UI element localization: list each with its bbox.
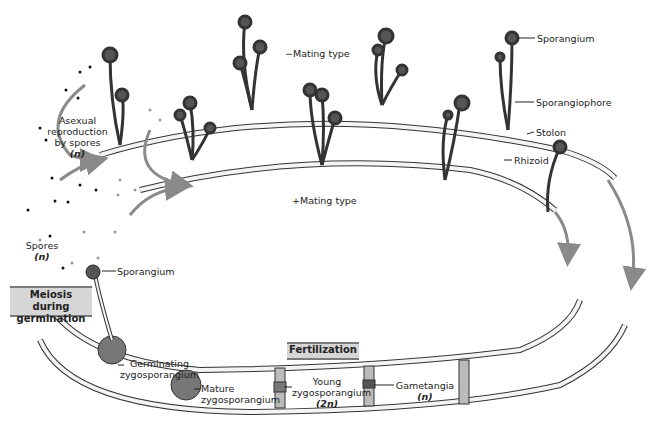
germinating-line1: Germinating (120, 358, 199, 369)
sporangium-left-label: Sporangium (117, 266, 175, 277)
germinating-line2: zygosporangium (120, 369, 199, 380)
asexual-line1: Asexual (40, 115, 115, 126)
spores (27, 66, 162, 270)
cycle-arrows (58, 85, 634, 282)
fertilization-stage-box: Fertilization (287, 342, 359, 360)
germinating-zygosporangium-label: Germinating zygosporangium (120, 358, 199, 380)
gametangia-label: Gametangia (n) (395, 380, 455, 402)
minus-mating-type-label: −Mating type (285, 48, 350, 59)
asexual-line3: by spores (40, 137, 115, 148)
stolon-label: Stolon (536, 127, 566, 138)
mature-zygosporangium-label: Mature zygosporangium (201, 383, 280, 405)
plus-mating-type-label: +Mating type (292, 195, 357, 206)
young-line2: zygosporangium (292, 387, 362, 398)
gametangia-ploidy: (n) (395, 391, 455, 402)
spores-label: Spores (n) (22, 240, 62, 262)
sporangium-label: Sporangium (537, 33, 595, 44)
mature-line1: Mature (201, 383, 280, 394)
asexual-ploidy: (n) (40, 148, 115, 159)
rhizoid-label: Rhizoid (514, 155, 549, 166)
asexual-line2: reproduction (40, 126, 115, 137)
mature-line2: zygosporangium (201, 394, 280, 405)
spores-line1: Spores (22, 240, 62, 251)
gametangia-line1: Gametangia (395, 380, 455, 391)
life-cycle-diagram (0, 0, 654, 436)
young-zygosporangium-label: Young zygosporangium (2n) (292, 376, 362, 409)
meiosis-line1: Meiosis during (10, 289, 92, 313)
asexual-reproduction-label: Asexual reproduction by spores (n) (40, 115, 115, 159)
meiosis-stage-box: Meiosis during germination (10, 286, 92, 317)
spores-ploidy: (n) (22, 251, 62, 262)
young-line1: Young (292, 376, 362, 387)
young-ploidy: (2n) (292, 398, 362, 409)
meiosis-line2: germination (10, 313, 92, 325)
sporangiophore-label: Sporangiophore (536, 97, 612, 108)
